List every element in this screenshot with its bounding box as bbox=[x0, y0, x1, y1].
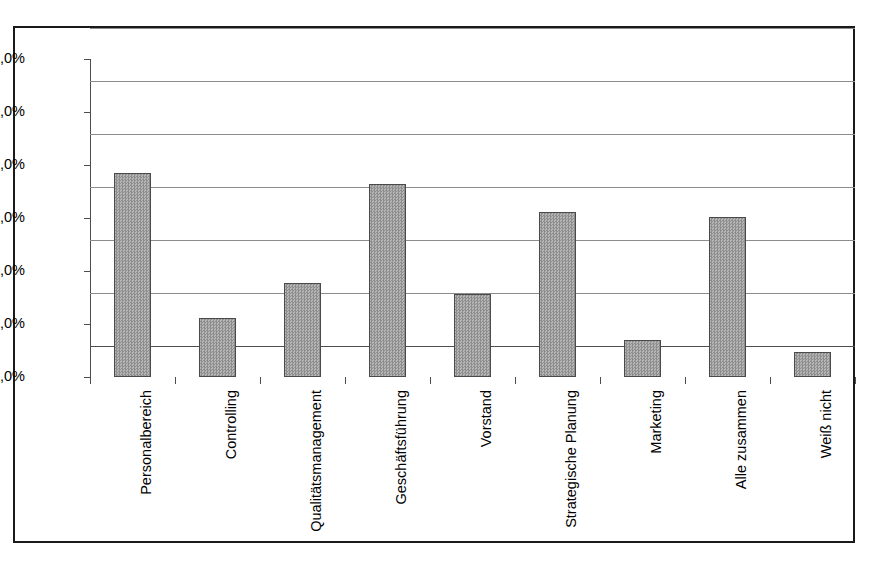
x-axis-category-label: Weiß nicht bbox=[819, 390, 834, 458]
bar bbox=[284, 283, 321, 377]
bar bbox=[624, 340, 661, 377]
x-tick-mark bbox=[515, 377, 516, 384]
bar bbox=[709, 217, 746, 377]
y-axis-tick-label: 20,0% bbox=[0, 263, 25, 278]
x-tick-mark bbox=[600, 377, 601, 384]
x-tick-mark bbox=[855, 377, 856, 384]
bar bbox=[199, 318, 236, 377]
bar bbox=[794, 352, 831, 377]
y-axis-tick-label: 60,0% bbox=[0, 51, 25, 66]
x-axis-category-label: Geschäftsführung bbox=[394, 390, 409, 504]
x-axis-category-label: Vorstand bbox=[479, 390, 494, 447]
x-tick-mark bbox=[260, 377, 261, 384]
x-tick-mark bbox=[175, 377, 176, 384]
x-tick-mark bbox=[770, 377, 771, 384]
bar bbox=[369, 184, 406, 377]
x-tick-mark bbox=[345, 377, 346, 384]
x-axis-category-label: Alle zusammen bbox=[734, 390, 749, 489]
bar bbox=[454, 294, 491, 377]
bar bbox=[539, 212, 576, 377]
y-axis-tick-label: 30,0% bbox=[0, 210, 25, 225]
x-tick-mark bbox=[685, 377, 686, 384]
y-axis-tick-label: 40,0% bbox=[0, 157, 25, 172]
x-axis-category-label: Strategische Planung bbox=[564, 390, 579, 528]
x-tick-mark bbox=[430, 377, 431, 384]
y-axis-tick-label: 0,0% bbox=[0, 369, 25, 384]
y-axis-tick-label: 50,0% bbox=[0, 104, 25, 119]
y-axis-tick-label: 10,0% bbox=[0, 316, 25, 331]
bar bbox=[114, 173, 151, 377]
gridline bbox=[90, 28, 855, 29]
x-axis-category-label: Personalbereich bbox=[139, 390, 154, 495]
x-tick-mark bbox=[90, 377, 91, 384]
x-axis-category-label: Qualitätsmanagement bbox=[309, 390, 324, 532]
chart-frame: 0,0%10,0%20,0%30,0%40,0%50,0%60,0% Perso… bbox=[13, 26, 855, 543]
x-axis-category-label: Controlling bbox=[224, 390, 239, 459]
x-axis-category-label: Marketing bbox=[649, 390, 664, 454]
plot-area bbox=[90, 59, 855, 377]
